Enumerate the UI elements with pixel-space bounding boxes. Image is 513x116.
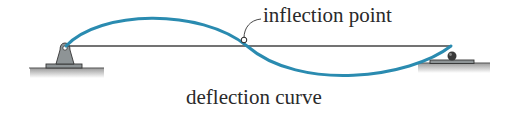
inflection-point-label: inflection point <box>263 3 392 28</box>
deflection-curve <box>66 18 451 75</box>
right-ground <box>418 63 490 73</box>
left-ground <box>29 68 104 78</box>
leader-line <box>244 19 261 38</box>
roller-support <box>430 52 474 64</box>
inflection-point-marker <box>241 37 247 43</box>
pin-support <box>46 43 82 68</box>
diagram-caption: deflection curve <box>186 85 322 110</box>
